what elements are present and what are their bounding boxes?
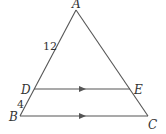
parallel-arrow-de-icon [79, 86, 86, 92]
vertex-label-c: C [148, 118, 157, 132]
length-label-ad: 12 [43, 40, 57, 53]
parallel-arrow-bc-icon [79, 113, 86, 119]
side-ab [20, 10, 76, 116]
triangle-diagram: A D E B C 12 4 [0, 0, 166, 134]
side-ac [76, 10, 148, 116]
length-label-db: 4 [17, 98, 24, 111]
vertex-label-a: A [71, 0, 81, 11]
vertex-label-e: E [133, 83, 143, 97]
vertex-label-d: D [20, 83, 31, 97]
vertex-label-b: B [8, 110, 18, 124]
